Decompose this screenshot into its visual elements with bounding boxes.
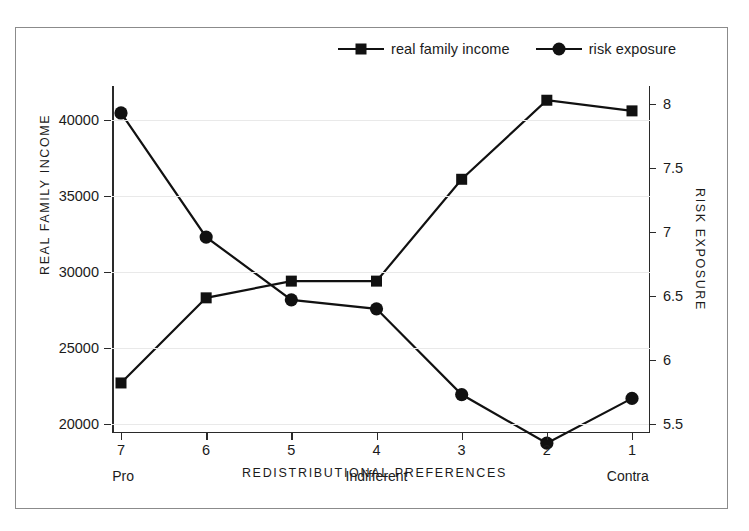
left-axis-tick (104, 196, 111, 197)
x-axis-tick-label: 6 (202, 442, 210, 458)
x-axis-tick-label: 2 (543, 442, 551, 458)
right-axis-tick-label: 6 (663, 352, 671, 368)
gridline (112, 120, 650, 121)
right-axis-tick-label: 5.5 (663, 416, 683, 432)
legend-item-real-family-income: real family income (338, 41, 510, 57)
gridline (112, 272, 650, 273)
x-axis-anchor-label: Contra (607, 468, 649, 484)
right-axis-tick (649, 296, 656, 297)
square-marker-icon (338, 48, 384, 50)
left-axis-tick-label: 40000 (59, 112, 99, 128)
x-axis-tick (632, 432, 633, 440)
left-axis-tick (104, 348, 111, 349)
legend-label-risk: risk exposure (589, 41, 677, 57)
data-point-circle (114, 106, 127, 119)
x-axis-tick-label: 7 (117, 442, 125, 458)
legend-label-income: real family income (391, 41, 510, 57)
x-axis-tick (206, 432, 207, 440)
left-axis-tick-label: 20000 (59, 416, 99, 432)
right-axis-tick-label: 7.5 (663, 160, 683, 176)
x-axis-tick (121, 432, 122, 440)
data-point-square (456, 174, 467, 185)
x-axis-anchor-label: Indifferent (345, 468, 407, 484)
right-axis-tick-label: 6.5 (663, 288, 683, 304)
gridline (112, 424, 650, 425)
right-axis-title: RISK EXPOSURE (693, 188, 707, 311)
right-axis-tick (649, 360, 656, 361)
data-point-circle (455, 388, 468, 401)
right-axis-tick-label: 7 (663, 224, 671, 240)
data-point-square (201, 292, 212, 303)
series-line-income (121, 100, 632, 383)
left-axis-tick-label: 25000 (59, 340, 99, 356)
left-axis-title: REAL FAMILY INCOME (38, 114, 52, 275)
left-axis-tick (104, 272, 111, 273)
chart-page: real family income risk exposure REAL FA… (0, 0, 749, 531)
data-point-square (116, 377, 127, 388)
left-axis-tick-label: 30000 (59, 264, 99, 280)
data-point-circle (285, 293, 298, 306)
chart-legend: real family income risk exposure (338, 41, 676, 57)
gridline (112, 348, 650, 349)
data-point-square (627, 105, 638, 116)
x-axis-tick (377, 432, 378, 440)
plot-area: 20000250003000035000400005.566.577.587Pr… (112, 86, 650, 433)
circle-marker-icon (536, 48, 582, 50)
left-axis-tick (104, 424, 111, 425)
left-axis-tick-label: 35000 (59, 188, 99, 204)
data-point-circle (625, 392, 638, 405)
gridline (112, 196, 650, 197)
data-point-square (541, 95, 552, 106)
x-axis-tick (462, 432, 463, 440)
data-point-square (286, 276, 297, 287)
series-lines (112, 86, 650, 433)
x-axis-tick (547, 432, 548, 440)
right-axis-tick-label: 8 (663, 96, 671, 112)
x-axis-tick-label: 3 (458, 442, 466, 458)
data-point-square (371, 276, 382, 287)
left-axis-tick (104, 120, 111, 121)
right-axis-tick (649, 104, 656, 105)
x-axis-tick-label: 5 (287, 442, 295, 458)
data-point-circle (200, 231, 213, 244)
right-axis-tick (649, 168, 656, 169)
right-axis-tick (649, 424, 656, 425)
legend-item-risk-exposure: risk exposure (536, 41, 677, 57)
x-axis-tick-label: 4 (372, 442, 380, 458)
right-axis-tick (649, 232, 656, 233)
data-point-circle (370, 302, 383, 315)
x-axis-tick (291, 432, 292, 440)
x-axis-anchor-label: Pro (112, 468, 134, 484)
x-axis-tick-label: 1 (628, 442, 636, 458)
